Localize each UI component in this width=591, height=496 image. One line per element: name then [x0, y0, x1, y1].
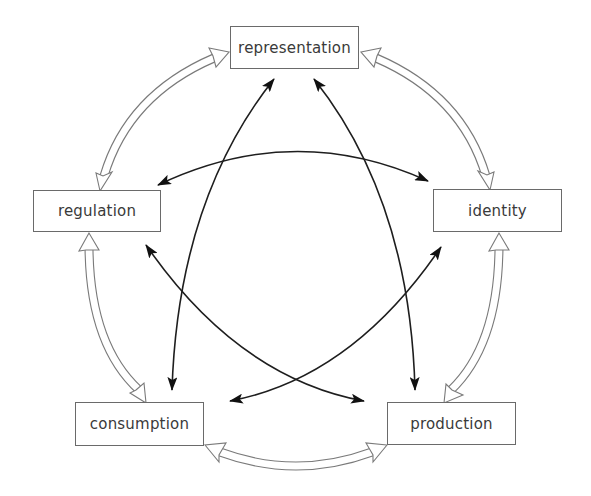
hollow-arrow-representation-regulation: [96, 48, 229, 191]
node-regulation: regulation: [33, 190, 161, 232]
node-representation: representation: [230, 26, 359, 69]
node-label: consumption: [90, 415, 189, 433]
node-consumption: consumption: [75, 402, 204, 446]
node-label: regulation: [58, 202, 136, 220]
node-label: production: [410, 415, 493, 433]
hollow-arrow-identity-production: [444, 233, 509, 403]
hollow-arrow-consumption-production: [205, 443, 387, 466]
arrow-identity-consumption: [230, 247, 441, 401]
arrow-representation-production: [314, 79, 415, 390]
hollow-arrow-regulation-consumption: [79, 233, 146, 403]
node-production: production: [387, 402, 516, 445]
hollow-arrow-representation-identity: [361, 48, 494, 190]
arrow-regulation-production: [146, 245, 364, 401]
arrow-representation-consumption: [172, 79, 274, 390]
node-label: representation: [238, 39, 351, 57]
node-identity: identity: [433, 189, 562, 232]
arrow-regulation-identity: [158, 151, 428, 185]
node-label: identity: [468, 202, 527, 220]
inner-links: [146, 79, 441, 401]
